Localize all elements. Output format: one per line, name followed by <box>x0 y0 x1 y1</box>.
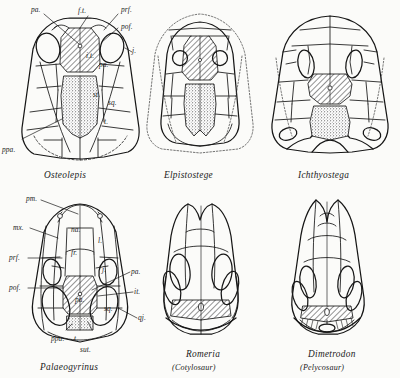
osteolepis-label-j: j. <box>131 46 136 55</box>
ichthyostega-postparietal-stippled <box>310 106 350 140</box>
palaeogyrinus-label-l: l. <box>98 236 102 245</box>
romeria-subtitle: (Cotylosaur) <box>172 363 216 372</box>
osteolepis-label-it: i.t. <box>86 51 94 60</box>
osteolepis-label-pa-top: pa. <box>30 5 41 14</box>
palaeogyrinus-label-pa-center: pa. <box>74 295 85 304</box>
palaeogyrinus-label-na: na. <box>71 225 81 234</box>
palaeogyrinus-label-sq: sq. <box>104 304 113 313</box>
elpistostege-pineal-foramen <box>198 58 201 61</box>
dimetrodon-pineal-foramen <box>325 308 330 315</box>
palaeogyrinus-label-fr: fr. <box>71 248 77 257</box>
ichthyostega-pineal-foramen <box>328 86 332 90</box>
romeria-caption: Romeria <box>185 349 220 359</box>
palaeogyrinus-caption: Palaeogyrinus <box>39 362 98 372</box>
palaeogyrinus-label-sut: sut. <box>80 345 91 354</box>
palaeogyrinus-label-pm: pm. <box>25 194 37 203</box>
osteolepis-label-pa-mid: pa. <box>98 60 109 69</box>
palaeogyrinus-label-mx: mx. <box>13 223 24 232</box>
osteolepis-label-pof: pof. <box>120 22 133 31</box>
dimetrodon-subtitle: (Pelycosaur) <box>300 363 344 372</box>
palaeogyrinus-label-qj: qj. <box>138 313 146 322</box>
palaeogyrinus-label-ppa: ppa. <box>50 334 64 343</box>
osteolepis-label-ft: f.t. <box>78 6 86 15</box>
osteolepis-label-prf: prf. <box>120 5 132 14</box>
osteolepis-label-ppa: ppa. <box>1 145 15 154</box>
osteolepis-label-t: t. <box>104 117 108 126</box>
osteolepis-label-st: st. <box>93 90 100 99</box>
palaeogyrinus-label-t: t. <box>74 334 78 343</box>
osteolepis-caption: Osteolepis <box>44 170 86 180</box>
osteolepis-label-sq: sq. <box>108 98 117 107</box>
elpistostege-caption: Elpistostege <box>163 170 213 180</box>
comparative-skull-plate: pa. f.t. prf. pof. i.t. pa. j. st. sq. t… <box>0 0 400 378</box>
dimetrodon-caption: Dimetrodon <box>307 349 356 359</box>
palaeogyrinus-label-j: j. <box>101 265 106 274</box>
palaeogyrinus-label-pa-right: pa. <box>130 267 141 276</box>
ichthyostega-caption: Ichthyostega <box>297 170 349 180</box>
palaeogyrinus-label-pof: pof. <box>8 283 21 292</box>
palaeogyrinus-label-it: it. <box>134 287 140 296</box>
osteolepis-pineal-foramen <box>78 44 82 48</box>
palaeogyrinus-label-prf: prf. <box>8 253 20 262</box>
